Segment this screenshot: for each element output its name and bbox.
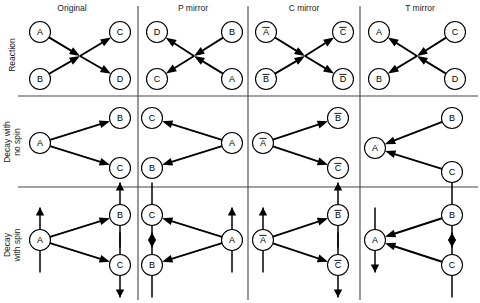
particle-node-C: C [110,255,131,276]
node-label: B [149,260,155,270]
arrow-shaft [50,243,106,261]
reaction-arrow-B-to-vertex [49,56,80,74]
arrow-shaft [166,219,222,237]
node-label: A [376,27,382,37]
arrow-shaft [50,146,106,164]
node-label: A [229,235,235,245]
node-label: C [117,260,124,270]
reaction-arrow-A-to-vertex [194,56,223,74]
cell-decay_no_spin-t_mirror: ABC [365,108,463,183]
particle-node-A: A [30,230,51,251]
node-label: A [37,27,43,37]
arrow-head [100,65,111,74]
reaction-arrow-Abar-to-Cbar [273,146,328,165]
reaction-arrow-A-to-B [50,217,110,236]
spin-arrow-head [448,233,456,241]
arrow-head [194,47,205,56]
particle-node-B: B [369,69,390,90]
node-label: C [452,27,459,37]
reaction-arrow-A-to-B [162,146,222,165]
node-label: A [263,27,269,37]
node-label: B [335,210,341,220]
spin-arrow-head [259,208,267,216]
node-label: C [117,27,124,37]
node-label: D [340,74,347,84]
arrow-shaft [273,220,324,237]
arrow-shaft [389,245,442,262]
node-label: D [117,74,124,84]
cell-decay_no_spin-c_mirror: ABC [253,108,349,179]
reaction-arrow-vertex-to-Dbar [305,56,334,74]
particle-node-Cbar: C [328,158,349,179]
cell-decay_with_spin-original: ABC [30,183,131,298]
arrow-head [317,121,328,129]
row-label-line: with spin [12,228,22,262]
cell-reaction-c_mirror: ABCD [256,22,354,90]
arrow-head [323,38,334,47]
particle-node-A: A [222,133,243,154]
reaction-arrow-C-to-A [385,243,442,262]
arrow-shaft [273,146,324,163]
reaction-arrow-vertex-to-B [388,56,417,74]
node-label: B [229,27,235,37]
particle-node-D: D [110,69,131,90]
reaction-arrow-C-to-A [385,150,442,168]
arrow-shaft [166,243,222,261]
cell-decay_no_spin-p_mirror: CBA [142,108,243,179]
particle-node-Abar: A [256,22,277,43]
particle-node-D: D [445,69,466,90]
particle-node-C: C [110,158,131,179]
spin-arrow-head [116,290,124,298]
particle-node-B: B [222,22,243,43]
reaction-arrow-Abar-to-vertex [275,38,305,56]
arrow-head [317,218,328,226]
arrow-head [385,150,396,158]
arrow-shaft [389,218,442,235]
cell-decay_with_spin-p_mirror: CBA [142,183,243,298]
column-headers: OriginalP mirrorC mirrorT mirror [57,3,435,13]
arrow-head [100,37,111,46]
arrow-head [388,65,399,74]
particle-node-Bbar: B [256,69,277,90]
arrow-head [162,255,173,263]
particle-node-A: A [30,22,51,43]
node-label: A [372,143,378,153]
particle-node-B: B [110,205,131,226]
reaction-arrow-Abar-to-Bbar [273,121,328,140]
diagram-canvas: OriginalP mirrorC mirrorT mirror Reactio… [0,0,480,303]
reaction-arrow-vertex-to-A [388,38,417,56]
node-label: B [263,74,269,84]
particle-node-B: B [442,108,463,129]
row-label-decay_with_spin: Decaywith spin [2,228,22,262]
particle-node-D: D [147,22,168,43]
arrow-shaft [166,146,222,164]
node-label: C [335,260,342,270]
reaction-arrow-A-to-B [162,243,222,262]
arrow-head [69,56,80,65]
particle-node-C: C [442,255,463,276]
particle-node-Abar: A [253,230,274,251]
row-label-line: Reaction [7,38,17,72]
cell-reaction-p_mirror: DCBA [147,22,243,90]
row-label-line: Decay with [2,121,12,163]
arrow-head [162,158,173,166]
reaction-arrow-Abar-to-Bbar [273,218,328,237]
reaction-arrow-Bbar-to-vertex [275,56,305,74]
arrow-head [166,38,177,47]
arrow-head [417,47,428,56]
node-label: A [37,138,43,148]
arrow-head [417,56,428,65]
arrow-shaft [389,122,443,143]
node-label: A [229,138,235,148]
row-label-line: Decay [2,232,12,257]
cell-decay_with_spin-t_mirror: ABC [365,183,463,298]
column-header-c_mirror: C mirror [289,3,320,13]
particle-node-Cbar: C [328,255,349,276]
reaction-arrow-C-to-vertex [417,38,446,56]
node-label: C [117,163,124,173]
arrow-head [294,56,305,65]
particle-node-C: C [110,22,131,43]
node-label: D [452,74,459,84]
arrow-head [166,65,177,74]
node-label: A [229,74,235,84]
